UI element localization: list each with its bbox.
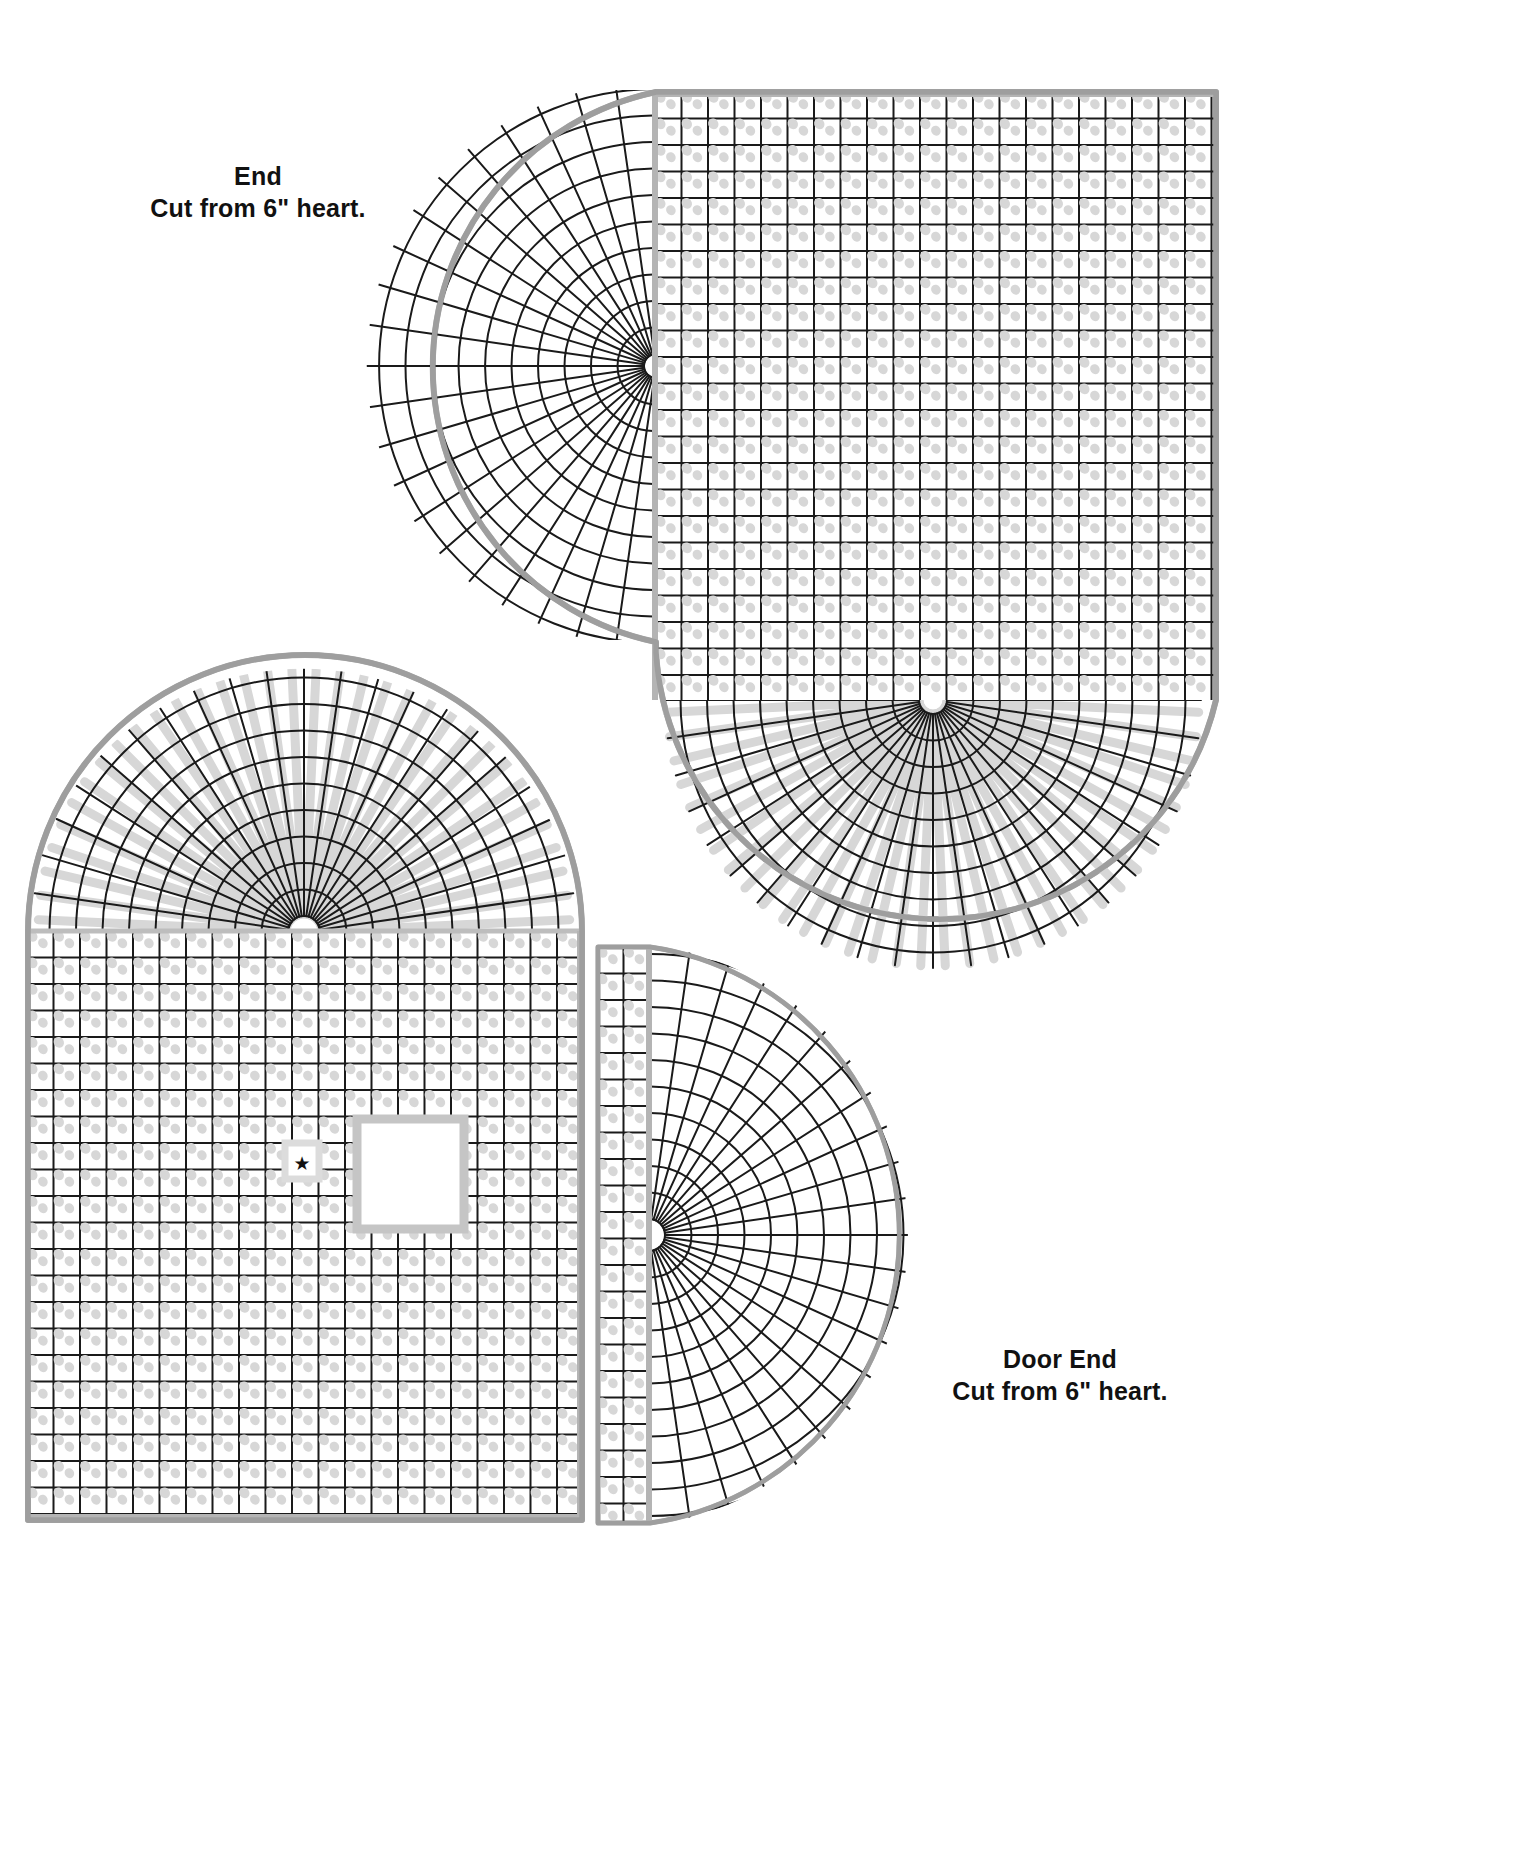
label-end-title: End	[88, 160, 428, 192]
piece-door-end	[25, 655, 582, 1520]
label-end: End Cut from 6" heart.	[88, 160, 428, 224]
label-door-end-instruction: Cut from 6" heart.	[890, 1375, 1230, 1407]
pattern-sheet-canvas: ★	[0, 0, 1520, 1856]
door-opening-hole	[357, 1119, 464, 1229]
label-door-end-title: Door End	[890, 1343, 1230, 1375]
pattern-sheet-root: ★ End Cut from 6" heart. Door End Cut fr…	[0, 0, 1520, 1856]
label-door-end: Door End Cut from 6" heart.	[890, 1343, 1230, 1407]
star-marker-icon: ★	[293, 1152, 310, 1174]
label-end-instruction: Cut from 6" heart.	[88, 192, 428, 224]
